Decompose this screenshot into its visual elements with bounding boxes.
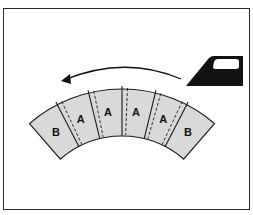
segment-label: B: [52, 126, 60, 138]
curved-band: BAAAAB: [29, 86, 214, 159]
arrow-head-icon: [61, 74, 71, 84]
iron-icon: [186, 56, 243, 86]
segment-label: A: [159, 113, 167, 125]
segment-label: B: [184, 126, 192, 138]
segment-label: A: [77, 113, 85, 125]
segment-label: A: [104, 106, 112, 118]
pressing-direction-arrow: [61, 67, 181, 84]
curved-band-diagram: BAAAAB: [0, 0, 253, 215]
segment-label: A: [132, 106, 140, 118]
